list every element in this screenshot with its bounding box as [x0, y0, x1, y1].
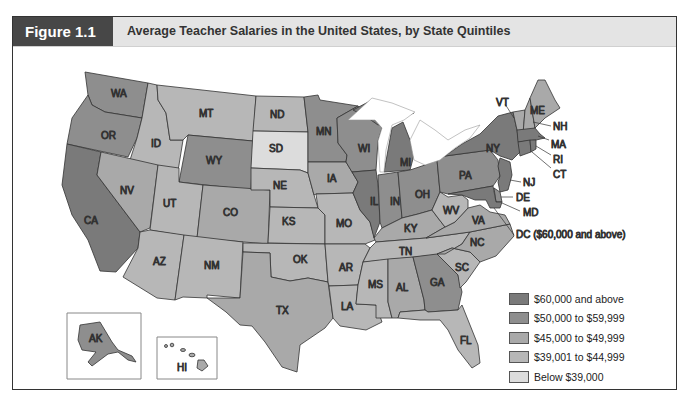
svg-text:NH: NH [553, 121, 567, 132]
svg-text:MS: MS [368, 279, 383, 290]
svg-text:AL: AL [396, 282, 409, 293]
hawaii-inset [157, 337, 217, 379]
legend-item: $45,000 to $49,999 [509, 328, 625, 348]
svg-text:MO: MO [336, 218, 352, 229]
svg-text:LA: LA [341, 301, 354, 312]
legend-swatch [509, 371, 529, 383]
svg-text:NC: NC [470, 237, 484, 248]
svg-text:ME: ME [530, 105, 545, 116]
svg-text:PA: PA [459, 170, 472, 181]
svg-text:ND: ND [270, 109, 284, 120]
svg-text:OK: OK [293, 254, 308, 265]
svg-text:IL: IL [370, 196, 379, 207]
svg-text:WV: WV [443, 205, 459, 216]
legend-label: Below $39,000 [534, 371, 603, 383]
svg-text:OH: OH [415, 189, 430, 200]
svg-text:WA: WA [111, 88, 127, 99]
state-KS [268, 207, 325, 244]
svg-text:NM: NM [204, 260, 220, 271]
svg-text:OR: OR [101, 130, 116, 141]
svg-text:KS: KS [282, 216, 296, 227]
svg-text:VA: VA [472, 215, 485, 226]
legend-label: $60,000 and above [534, 293, 624, 305]
legend-swatch [509, 293, 529, 305]
state-RI [530, 140, 536, 152]
svg-text:FL: FL [460, 335, 472, 346]
legend-label: $39,001 to $44,999 [534, 351, 625, 363]
svg-text:SD: SD [269, 143, 283, 154]
svg-text:CO: CO [223, 207, 238, 218]
svg-text:DC ($60,000 and above): DC ($60,000 and above) [516, 229, 626, 240]
legend-item: $50,000 to $59,999 [509, 309, 625, 329]
svg-text:CT: CT [553, 169, 566, 180]
state-CT [518, 140, 531, 156]
svg-text:IA: IA [327, 173, 337, 184]
svg-text:CA: CA [84, 215, 98, 226]
legend-swatch [509, 351, 529, 363]
svg-text:WI: WI [358, 143, 370, 154]
svg-text:MD: MD [523, 207, 539, 218]
svg-text:NJ: NJ [523, 177, 535, 188]
svg-text:UT: UT [163, 198, 176, 209]
legend-item: $39,001 to $44,999 [509, 348, 625, 368]
svg-text:AK: AK [89, 333, 103, 344]
legend-item: $60,000 and above [509, 289, 625, 309]
state-NJ [498, 158, 512, 192]
legend: $60,000 and above $50,000 to $59,999 $45… [509, 289, 625, 387]
legend-item: Below $39,000 [509, 367, 625, 387]
svg-text:MT: MT [199, 108, 213, 119]
svg-text:HI: HI [177, 362, 187, 373]
legend-label: $45,000 to $49,999 [534, 332, 625, 344]
svg-text:TN: TN [399, 246, 412, 257]
legend-label: $50,000 to $59,999 [534, 312, 625, 324]
legend-swatch [509, 332, 529, 344]
svg-text:MI: MI [400, 157, 411, 168]
svg-text:MA: MA [551, 139, 566, 150]
svg-text:AR: AR [339, 262, 353, 273]
svg-text:KY: KY [404, 223, 418, 234]
svg-text:IN: IN [390, 196, 400, 207]
svg-text:NY: NY [486, 143, 500, 154]
svg-text:NV: NV [120, 185, 134, 196]
svg-text:DE: DE [516, 192, 530, 203]
svg-text:MN: MN [316, 126, 332, 137]
svg-text:TX: TX [276, 305, 289, 316]
svg-text:NE: NE [273, 180, 287, 191]
svg-text:GA: GA [430, 277, 445, 288]
svg-text:RI: RI [553, 154, 563, 165]
svg-text:SC: SC [455, 262, 469, 273]
legend-swatch [509, 312, 529, 324]
svg-text:ID: ID [151, 138, 161, 149]
svg-text:WY: WY [206, 155, 222, 166]
svg-text:VT: VT [496, 97, 509, 108]
svg-text:AZ: AZ [153, 256, 166, 267]
